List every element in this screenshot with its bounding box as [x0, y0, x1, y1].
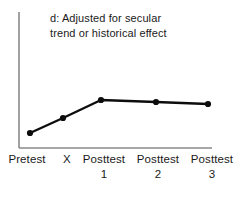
x-tick-label-posttest-1-sub: 1 [78, 167, 130, 182]
data-point-posttest-2 [153, 99, 159, 105]
data-point-posttest-1 [98, 97, 104, 103]
x-tick-label-posttest-3-sub: 3 [186, 167, 238, 182]
chart-title: d: Adjusted for secular trend or histori… [50, 11, 235, 41]
x-tick-label-posttest-3-main: Posttest [186, 152, 238, 167]
x-tick-label-posttest-2-main: Posttest [132, 152, 184, 167]
x-tick-label-x: X [54, 152, 80, 167]
x-tick-label-posttest-2: Posttest 2 [132, 152, 184, 181]
chart-figure: d: Adjusted for secular trend or histori… [0, 0, 245, 199]
x-tick-label-posttest-1-main: Posttest [78, 152, 130, 167]
chart-title-line-2: trend or historical effect [50, 26, 235, 41]
data-point-posttest-3 [205, 101, 211, 107]
x-tick-label-pretest-main: Pretest [0, 152, 54, 167]
x-axis-tick-labels: Pretest X Posttest 1 Posttest 2 Posttest… [0, 152, 245, 197]
x-tick-label-posttest-2-sub: 2 [132, 167, 184, 182]
x-tick-label-posttest-1: Posttest 1 [78, 152, 130, 181]
data-point-pretest [27, 130, 33, 136]
chart-title-line-1: d: Adjusted for secular [50, 11, 235, 26]
data-point-x [60, 115, 66, 121]
x-tick-label-pretest: Pretest [0, 152, 54, 167]
x-tick-label-x-main: X [54, 152, 80, 167]
x-tick-label-posttest-3: Posttest 3 [186, 152, 238, 181]
